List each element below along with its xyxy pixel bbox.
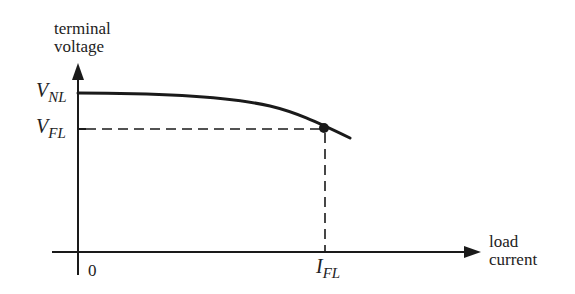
y-axis-arrow-icon [72,63,84,80]
x-axis-title-line1: load [489,233,537,251]
x-axis-title-line2: current [489,251,537,269]
v-fl-symbol: V [36,115,48,137]
v-fl-label: VFL [36,116,66,143]
i-fl-symbol: I [316,255,323,277]
y-axis-title: terminal voltage [54,20,111,56]
x-axis-title: load current [489,233,537,269]
v-nl-label: VNL [36,80,67,107]
full-load-point [319,123,329,133]
v-fl-subscript: FL [48,125,66,141]
y-axis-title-line2: voltage [54,38,111,56]
voltage-regulation-diagram: terminal voltage VNL VFL 0 IFL load curr… [0,0,575,294]
v-nl-symbol: V [36,79,48,101]
terminal-voltage-curve [78,93,350,138]
i-fl-subscript: FL [323,265,341,281]
v-nl-subscript: NL [48,89,66,105]
origin-label: 0 [88,262,97,279]
x-axis-arrow-icon [464,246,481,258]
i-fl-label: IFL [316,256,340,283]
y-axis-title-line1: terminal [54,20,111,38]
